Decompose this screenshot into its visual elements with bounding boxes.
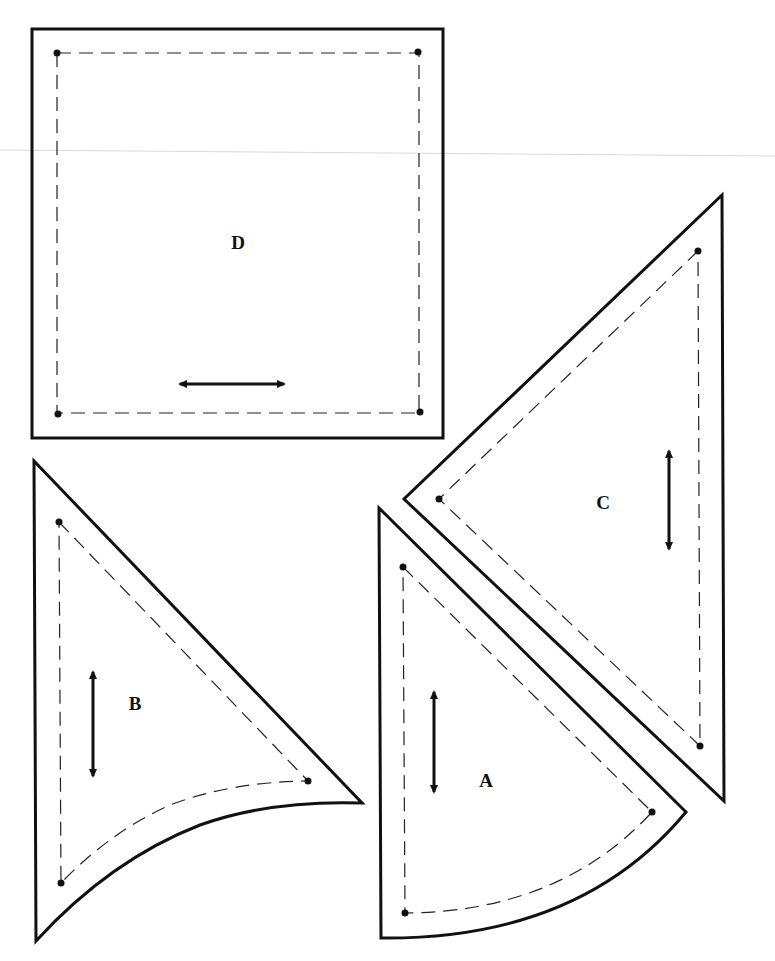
- scan-line: [0, 150, 775, 156]
- piece-c-cut-line: [404, 195, 724, 801]
- piece-a-label: A: [479, 770, 493, 791]
- piece-c-seam-line: [439, 251, 700, 746]
- piece-c-corner-dots: [436, 248, 704, 750]
- piece-c-label: C: [596, 492, 610, 513]
- piece-b-label: B: [129, 693, 142, 714]
- piece-b-cut-line: [34, 461, 362, 941]
- pattern-sheet: D C A B: [0, 0, 775, 961]
- piece-c: C: [404, 195, 724, 801]
- piece-b-seam-line: [59, 522, 308, 883]
- piece-d: D: [32, 29, 443, 438]
- piece-b: B: [34, 461, 362, 941]
- piece-d-label: D: [231, 232, 245, 253]
